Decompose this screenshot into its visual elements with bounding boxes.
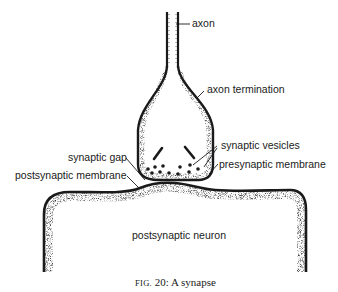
label-presynaptic-membrane: presynaptic membrane <box>219 159 326 170</box>
caption-prefix: Fig. <box>135 278 152 288</box>
figure-caption: Fig. 20: A synapse <box>135 277 216 288</box>
leader-postsynaptic-membrane <box>127 176 140 189</box>
vesicle-arcs <box>154 147 194 159</box>
label-axon-termination: axon termination <box>207 84 285 95</box>
axon-shaft <box>167 12 178 68</box>
label-synaptic-vesicles: synaptic vesicles <box>221 140 300 151</box>
label-postsynaptic-neuron: postsynaptic neuron <box>132 230 226 241</box>
caption-text: 20: A synapse <box>152 276 216 288</box>
leader-axon-termination <box>197 91 204 98</box>
label-synaptic-gap: synaptic gap <box>68 152 127 163</box>
axon-termination-bulb <box>138 66 213 180</box>
postsynaptic-neuron-membrane <box>44 183 306 272</box>
label-postsynaptic-membrane: postsynaptic membrane <box>15 170 126 181</box>
label-axon: axon <box>192 18 215 29</box>
synapse-diagram: axon axon termination synaptic vesicles … <box>0 0 338 292</box>
